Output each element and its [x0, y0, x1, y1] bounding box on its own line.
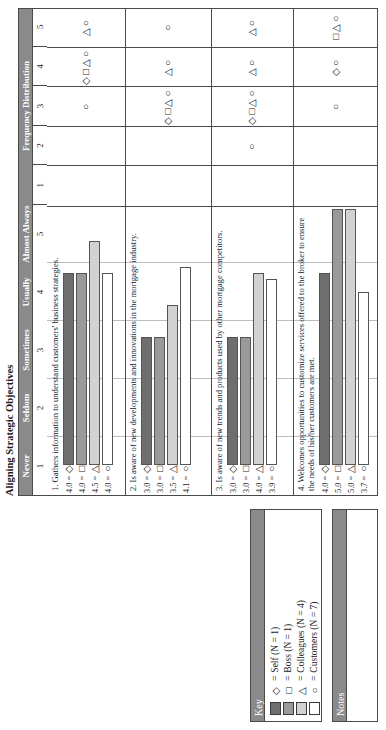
key-shape-icon: ◇	[271, 684, 280, 697]
bar-value-number: 3.0 =	[156, 474, 165, 493]
bar-boss	[154, 337, 165, 465]
bar-colleagues	[253, 273, 264, 465]
bar-shape-icon: △	[252, 464, 265, 474]
key-item: ◇=Self (N = 1)	[269, 516, 281, 715]
bar-shape-icon: □	[153, 464, 166, 474]
key-equals: =	[296, 676, 306, 681]
key-shape-icon: △	[297, 684, 306, 697]
notes-panel-title: Notes	[332, 509, 347, 722]
bar-value-number: 4.0 =	[255, 474, 264, 493]
bar-row: 3.0 = □	[239, 206, 252, 495]
bar-customers	[102, 273, 113, 465]
bar-value-label: 4.0 = △	[252, 464, 266, 493]
bar-shape-icon: ○	[179, 464, 192, 474]
bar-row: 5.0 = □	[331, 206, 344, 495]
bar-shape-icon: ○	[357, 464, 370, 474]
scale-number-1: 1	[33, 437, 47, 495]
bar-colleagues	[167, 305, 178, 465]
bar-row: 4.1 = ○	[179, 206, 192, 495]
bar-customers	[358, 292, 369, 465]
freq-marker: ○	[81, 100, 90, 114]
bar-shape-icon: □	[239, 464, 252, 474]
key-item: □=Boss (N = 1)	[282, 516, 294, 715]
scale-number-row: 1234512345	[33, 8, 47, 496]
key-item-label: Colleagues (N = 4)	[296, 600, 306, 673]
freq-column-4	[47, 48, 377, 88]
notes-panel: Notes	[332, 509, 378, 722]
freq-marker: ○	[331, 12, 340, 26]
bar-customers	[266, 279, 277, 465]
bar-value-label: 4.0 = ◇	[62, 464, 76, 493]
freq-marker: ○	[163, 21, 172, 35]
freq-number-4: 4	[33, 47, 47, 87]
bar-shape-icon: ○	[101, 464, 114, 474]
bar-shape-icon: ◇	[226, 464, 239, 474]
bar-customers	[180, 267, 191, 465]
freq-number-1: 1	[33, 165, 47, 205]
bar-value-number: 3.7 =	[360, 474, 369, 493]
item-statement: 1. Gathers information to understand cus…	[50, 213, 60, 491]
freq-marker: ○	[81, 47, 90, 61]
freq-marker: ○	[331, 100, 340, 114]
key-color-swatch	[309, 702, 320, 715]
bar-shape-icon: ◇	[62, 464, 75, 474]
scale-number-3: 3	[33, 321, 47, 379]
bar-value-label: 4.0 = □	[75, 464, 89, 493]
key-shape-icon: □	[284, 684, 293, 697]
bar-value-label: 3.0 = ◇	[226, 464, 240, 493]
bar-shape-icon: □	[331, 464, 344, 474]
item-statement: 4. Welcomes opportunities to customize s…	[296, 213, 316, 491]
key-item: △=Colleagues (N = 4)	[295, 516, 307, 715]
bar-value-number: 3.0 =	[229, 474, 238, 493]
bar-value-label: 3.0 = □	[239, 464, 253, 493]
bar-value-number: 5.0 =	[334, 474, 343, 493]
bar-shape-icon: ○	[265, 464, 278, 474]
chart-container: NeverSeldomSometimesUsuallyAlmost Always…	[18, 8, 378, 496]
freq-row-separator	[211, 9, 212, 206]
bar-shape-icon: △	[88, 464, 101, 474]
group-separator	[293, 206, 294, 495]
freq-marker: ○	[163, 56, 172, 70]
freq-tick-divider	[33, 164, 47, 165]
scale-number-2: 2	[33, 379, 47, 437]
bar-value-label: 4.0 = ○	[101, 464, 115, 493]
freq-number-2: 2	[33, 126, 47, 166]
page-title: Aligning Strategic Objectives	[4, 365, 15, 496]
bar-value-number: 3.9 =	[268, 474, 277, 493]
notes-panel-body[interactable]	[347, 509, 378, 722]
bar-colleagues	[345, 209, 356, 465]
bar-value-number: 4.5 =	[91, 474, 100, 493]
bar-boss	[76, 273, 87, 465]
key-color-swatch	[283, 702, 294, 715]
freq-marker: ○	[247, 87, 256, 101]
bar-row: 4.0 = ◇	[62, 206, 75, 495]
freq-tick-divider	[33, 125, 47, 126]
key-item-label: Self (N = 1)	[270, 627, 280, 673]
bar-row: 3.0 = □	[153, 206, 166, 495]
bar-row: 4.5 = △	[88, 206, 101, 495]
bar-self	[63, 273, 74, 465]
key-panel: Key ◇=Self (N = 1)□=Boss (N = 1)△=Collea…	[250, 509, 322, 722]
bar-row: 4.0 = □	[75, 206, 88, 495]
document-page: Key ◇=Self (N = 1)□=Boss (N = 1)△=Collea…	[0, 0, 386, 730]
bar-value-label: 3.0 = ◇	[140, 464, 154, 493]
key-item: ○=Customers (N = 7)	[308, 516, 320, 715]
bar-value-number: 3.0 =	[143, 474, 152, 493]
scale-label-sometimes: Sometimes	[19, 321, 34, 379]
freq-marker: ○	[247, 140, 256, 154]
freq-column-3	[47, 87, 377, 127]
key-item-label: Boss (N = 1)	[283, 624, 293, 673]
key-color-swatch	[270, 702, 281, 715]
freq-column-1	[47, 166, 377, 206]
bar-value-number: 4.0 =	[321, 474, 330, 493]
bar-shape-icon: △	[166, 464, 179, 474]
bar-boss	[332, 209, 343, 465]
bar-self	[319, 273, 330, 465]
bar-value-number: 5.0 =	[347, 474, 356, 493]
scale-number-5: 5	[33, 205, 47, 263]
bar-row: 5.0 = △	[344, 206, 357, 495]
scale-label-seldom: Seldom	[19, 379, 34, 437]
bar-row: 3.5 = △	[166, 206, 179, 495]
bar-boss	[240, 337, 251, 465]
scale-label-never: Never	[19, 437, 34, 495]
